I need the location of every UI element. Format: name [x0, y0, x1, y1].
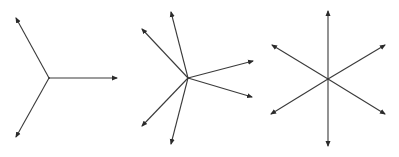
vector-arrow	[142, 78, 188, 126]
vector-arrow	[142, 29, 188, 78]
three-vector-star	[16, 18, 117, 137]
center-node	[327, 78, 329, 80]
center-node	[48, 77, 50, 79]
vector-arrow	[16, 18, 49, 78]
vector-arrow	[16, 78, 49, 137]
vector-arrow	[171, 78, 188, 144]
six-vector-irregular-star	[142, 12, 253, 144]
vector-arrow	[328, 45, 385, 79]
vector-arrow	[328, 79, 385, 114]
vector-arrow	[188, 78, 252, 97]
six-vector-regular-star	[271, 11, 385, 146]
vector-arrow	[272, 45, 328, 79]
vector-star-diagrams	[0, 0, 399, 157]
vector-arrow	[171, 12, 188, 78]
vector-arrow	[271, 79, 328, 114]
center-node	[187, 77, 189, 79]
vector-arrow	[188, 61, 253, 78]
